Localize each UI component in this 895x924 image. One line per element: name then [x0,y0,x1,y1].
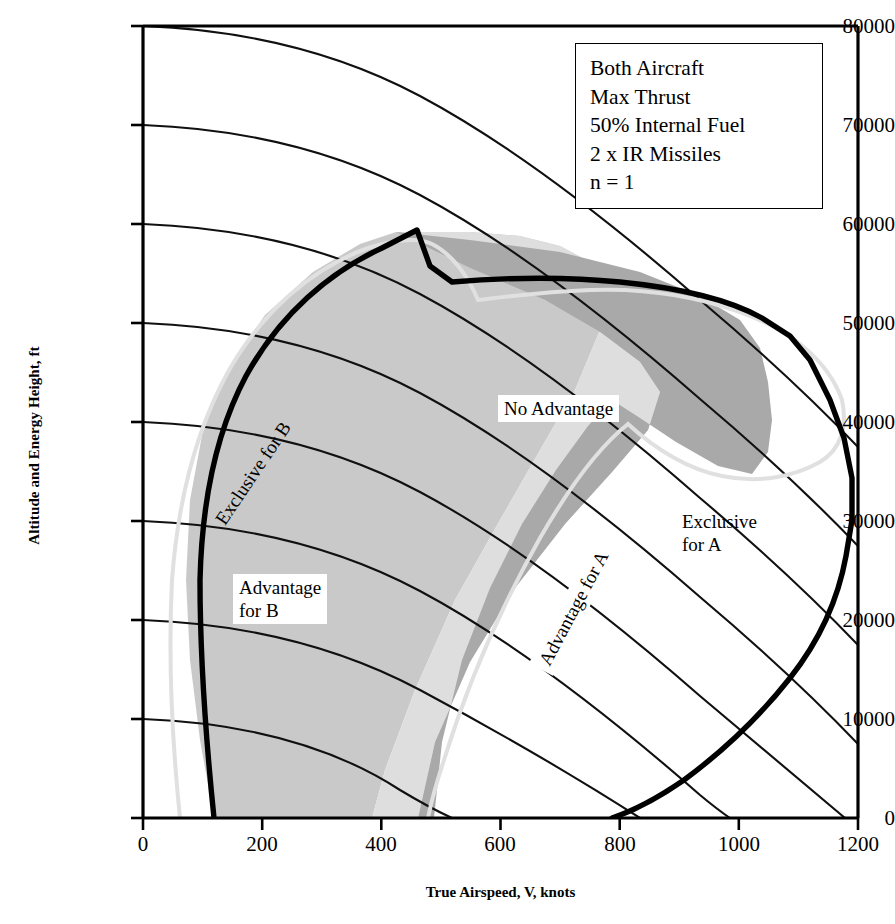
legend-line-load-factor: n = 1 [590,168,822,197]
annotation-advantage-for-b-line2: for B [239,599,321,622]
annotation-exclusive-for-a: Exclusive for A [676,508,763,558]
y-tick-label: 20000 [817,610,895,631]
y-tick-label: 50000 [817,313,895,334]
legend-line-ir-missiles: 2 x IR Missiles [590,140,822,169]
legend-line-internal-fuel: 50% Internal Fuel [590,111,822,140]
y-tick-label: 40000 [817,412,895,433]
x-axis-ticks [143,818,858,830]
y-tick-label: 10000 [817,709,895,730]
legend-line-both-aircraft: Both Aircraft [590,54,822,83]
y-tick-label: 60000 [817,214,895,235]
y-tick-label: 70000 [817,115,895,136]
y-tick-label: 0 [817,808,895,829]
conditions-legend-box: Both Aircraft Max Thrust 50% Internal Fu… [575,43,823,209]
y-tick-label: 80000 [817,16,895,37]
x-tick-label: 1200 [813,834,895,855]
annotation-no-advantage: No Advantage [498,395,619,422]
x-tick-label: 400 [336,834,426,855]
x-tick-label: 200 [217,834,307,855]
chart-figure: 80000 70000 60000 50000 40000 30000 2000… [0,0,895,924]
annotation-advantage-for-b: Advantage for B [233,574,327,624]
x-axis-title: True Airspeed, V, knots [143,884,858,901]
legend-line-max-thrust: Max Thrust [590,83,822,112]
annotation-exclusive-for-a-line2: for A [682,533,757,556]
y-tick-label: 30000 [817,511,895,532]
annotation-advantage-for-b-line1: Advantage [239,576,321,599]
x-tick-label: 1000 [694,834,784,855]
y-axis-ticks [131,26,143,818]
x-tick-label: 600 [455,834,545,855]
x-tick-label: 0 [98,834,188,855]
y-axis-title: Altitude and Energy Height, ft [26,316,43,576]
x-tick-label: 800 [575,834,665,855]
annotation-exclusive-for-a-line1: Exclusive [682,510,757,533]
